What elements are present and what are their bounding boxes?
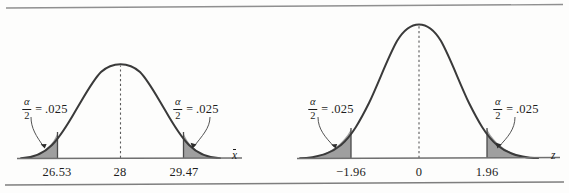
alpha-symbol: α [174, 97, 182, 109]
denominator: 2 [23, 110, 30, 122]
alpha-note-lower-xbar: α 2 = .025 [22, 97, 67, 121]
leader-line-lower-xbar [31, 117, 44, 147]
alpha-note-lower-z: α 2 = .025 [308, 97, 353, 121]
alpha-value: .025 [196, 103, 219, 116]
alpha-symbol: α [23, 97, 31, 109]
panel-z [297, 25, 560, 159]
alpha-symbol: α [309, 97, 317, 109]
leader-line-upper-z [499, 117, 516, 147]
alpha-value: .025 [331, 103, 354, 116]
axis-line-z [297, 158, 560, 159]
denominator: 2 [174, 110, 181, 122]
tick-label-center-xbar: 28 [114, 166, 127, 179]
alpha-fraction: α 2 [173, 97, 182, 121]
equals-sign: = [506, 103, 513, 115]
alpha-fraction: α 2 [493, 97, 502, 121]
alpha-note-upper-xbar: α 2 = .025 [173, 97, 218, 121]
axis-label-z: z [551, 150, 555, 162]
tick-label-lower-z: −1.96 [336, 166, 366, 179]
denominator: 2 [309, 110, 316, 122]
axis-line-xbar [17, 158, 242, 159]
equals-sign: = [35, 103, 42, 115]
bottom-rule [5, 182, 564, 185]
x-bar-glyph: x [232, 150, 237, 162]
leader-line-lower-z [318, 117, 335, 147]
equals-sign: = [186, 103, 193, 115]
leader-arrowhead-lower-xbar [41, 144, 47, 149]
alpha-fraction: α 2 [308, 97, 317, 121]
equals-sign: = [321, 103, 328, 115]
tick-label-lower-xbar: 26.53 [42, 166, 71, 179]
alpha-note-upper-z: α 2 = .025 [493, 97, 538, 121]
leader-line-upper-xbar [194, 117, 211, 147]
denominator: 2 [494, 110, 501, 122]
tick-label-upper-xbar: 29.47 [169, 166, 198, 179]
alpha-symbol: α [494, 97, 502, 109]
tick-label-upper-z: 1.96 [476, 166, 499, 179]
alpha-value: .025 [516, 103, 539, 116]
statistics-figure: α 2 = .025 α 2 = .025 26.53 28 29.47 x α… [0, 0, 569, 193]
axis-label-xbar: x [232, 150, 237, 162]
alpha-fraction: α 2 [22, 97, 31, 121]
tick-label-center-z: 0 [416, 166, 422, 179]
alpha-value: .025 [45, 103, 68, 116]
top-rule [6, 5, 563, 9]
